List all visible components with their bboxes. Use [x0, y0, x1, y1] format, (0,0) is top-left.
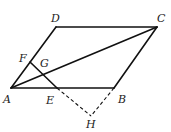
label-e: E — [45, 94, 54, 107]
label-d: D — [50, 12, 60, 25]
dashed-segment-eh — [57, 88, 91, 116]
label-h: H — [85, 118, 96, 131]
label-b: B — [117, 93, 126, 106]
dashed-segment-bh — [91, 88, 114, 116]
label-c: C — [157, 12, 166, 25]
geometry-diagram: A B C D F G E H — [0, 0, 171, 132]
label-g: G — [40, 57, 49, 70]
label-f: F — [18, 52, 27, 65]
label-a: A — [2, 93, 11, 106]
